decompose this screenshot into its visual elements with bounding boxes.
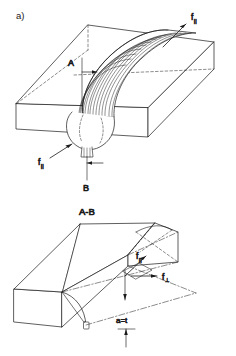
force-perpendicular-subscript: ⊥: [165, 277, 170, 283]
fillet-root-marker: [84, 322, 90, 329]
force-label-bottom-subscript: ||: [41, 163, 44, 169]
section-label-a: A: [68, 58, 74, 68]
force-parallel-subscript: ||: [139, 257, 142, 263]
dimension-label-a-equals-t: a=t: [116, 316, 128, 325]
section-view-title: A-B: [79, 206, 95, 217]
section-left-end-face: [14, 289, 62, 327]
section-label-b: B: [83, 183, 89, 193]
figure-canvas: a): [0, 0, 236, 356]
panel-label-a: a): [16, 10, 24, 21]
welding-figure: a): [0, 0, 236, 356]
force-label-top-subscript: ||: [194, 18, 197, 24]
